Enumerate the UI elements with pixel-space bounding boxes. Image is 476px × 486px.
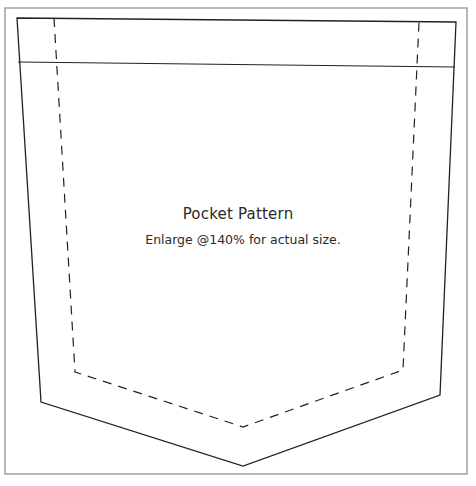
diagram-subtitle: Enlarge @140% for actual size. (0, 232, 476, 247)
diagram-title: Pocket Pattern (0, 205, 476, 223)
pocket-band-line (18, 62, 455, 67)
